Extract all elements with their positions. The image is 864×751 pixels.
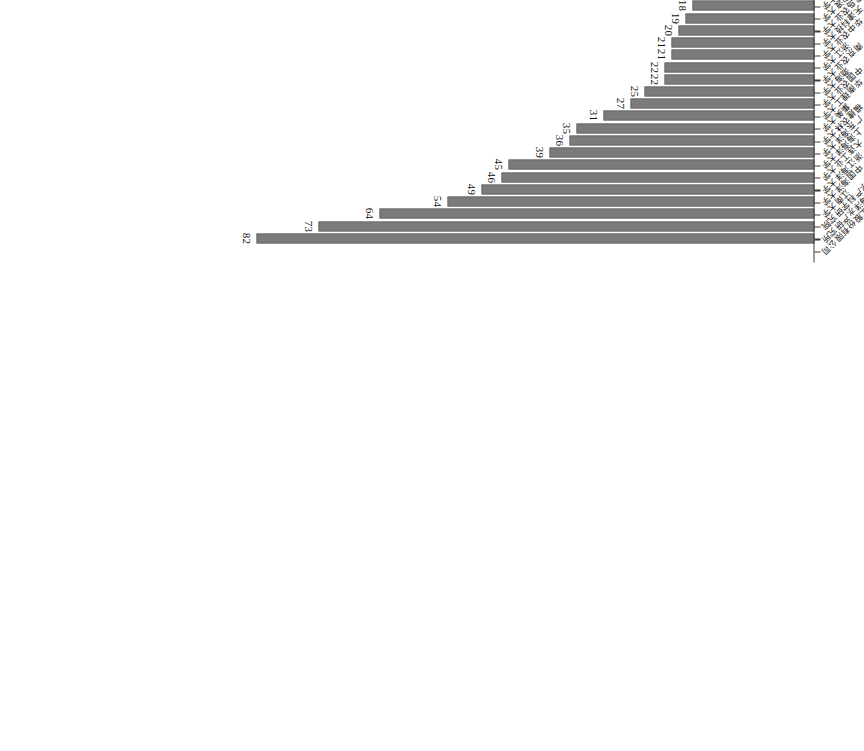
bar-value-label: 49 <box>466 184 477 195</box>
category-tick <box>815 202 821 203</box>
bar <box>685 13 814 23</box>
bar-value-label: 45 <box>493 159 504 170</box>
bar <box>631 99 815 109</box>
category-tick <box>815 166 821 167</box>
bar-row: 21 <box>203 38 815 48</box>
bar <box>549 148 814 158</box>
bar-row: 82 <box>203 233 815 243</box>
category-tick <box>815 19 821 20</box>
bar-value-label: 54 <box>432 196 443 207</box>
bar-row: 18 <box>203 1 815 11</box>
bar-row: 20 <box>203 25 815 35</box>
bar-row: 54 <box>203 197 815 207</box>
bar <box>672 38 815 48</box>
category-tick <box>815 153 821 154</box>
bar-value-label: 27 <box>616 98 627 109</box>
bar <box>665 62 815 72</box>
bar-row: 27 <box>203 99 815 109</box>
bar-value-label: 64 <box>364 208 375 219</box>
bar <box>645 87 815 97</box>
bar-row: 19 <box>203 13 815 23</box>
bar-value-label: 19 <box>670 12 681 23</box>
bar-chart-figure: 8273645449464539363531272522222121201918… <box>160 0 864 273</box>
category-tick <box>815 214 821 215</box>
bar <box>379 209 814 219</box>
bar-value-label: 25 <box>629 86 640 97</box>
bar-value-label: 36 <box>555 135 566 146</box>
bar-row: 73 <box>203 221 815 231</box>
category-tick <box>815 104 821 105</box>
bar-value-label: 20 <box>663 25 674 36</box>
category-tick <box>815 251 821 252</box>
bar-value-label: 21 <box>657 37 668 48</box>
bar-value-label: 35 <box>561 123 572 134</box>
bar-row: 45 <box>203 160 815 170</box>
bar-value-label: 22 <box>650 61 661 72</box>
bar <box>447 197 814 207</box>
bar-row: 22 <box>203 74 815 84</box>
bar <box>318 221 814 231</box>
bar-row: 31 <box>203 111 815 121</box>
bar-row: 64 <box>203 209 815 219</box>
bar-value-label: 31 <box>589 110 600 121</box>
bar <box>679 25 815 35</box>
bar <box>577 123 815 133</box>
bar <box>570 135 815 145</box>
bar <box>481 184 814 194</box>
category-tick <box>815 6 821 7</box>
category-tick <box>815 178 821 179</box>
plot-area: 8273645449464539363531272522222121201918… <box>203 0 815 259</box>
bar-value-label: 18 <box>677 0 688 11</box>
category-tick <box>815 129 821 130</box>
category-tick <box>815 227 821 228</box>
bar <box>502 172 815 182</box>
bar-value-label: 21 <box>657 49 668 60</box>
bar-row: 22 <box>203 62 815 72</box>
bar <box>509 160 815 170</box>
category-tick <box>815 117 821 118</box>
bar <box>692 1 814 11</box>
category-tick <box>815 68 821 69</box>
bar-value-label: 39 <box>534 147 545 158</box>
bar-value-label: 73 <box>303 220 314 231</box>
bar-row: 39 <box>203 148 815 158</box>
bar-row: 35 <box>203 123 815 133</box>
bar-row: 21 <box>203 50 815 60</box>
bar-value-label: 46 <box>487 171 498 182</box>
bar <box>672 50 815 60</box>
bar-row: 46 <box>203 172 815 182</box>
bar <box>604 111 815 121</box>
bar-row: 49 <box>203 184 815 194</box>
bar <box>665 74 815 84</box>
category-axis-line <box>813 0 814 263</box>
bar-row: 36 <box>203 135 815 145</box>
bar-value-label: 82 <box>242 233 253 244</box>
bar-row: 25 <box>203 87 815 97</box>
chart-canvas: 8273645449464539363531272522222121201918… <box>160 0 864 273</box>
category-tick <box>815 55 821 56</box>
bar-value-label: 22 <box>650 74 661 85</box>
bar <box>257 233 815 243</box>
